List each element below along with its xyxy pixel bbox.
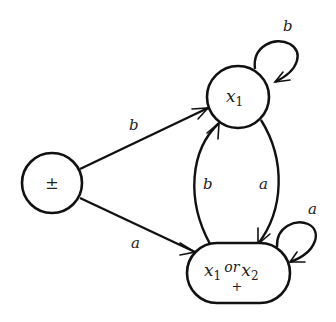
automaton-diagram: b a b a b a ± x1 [0, 0, 336, 322]
edge-x1-to-x1-or-x2: a [258, 120, 279, 244]
node-x1-or-x2: x1orx2 + [187, 243, 290, 303]
edge-label: b [203, 175, 213, 193]
edge-label: a [308, 200, 317, 218]
final-state-mark: + [232, 279, 243, 294]
edge-label: a [131, 234, 140, 252]
node-start: ± [22, 153, 82, 213]
edge-label: b [283, 17, 293, 35]
edge-start-to-x1-or-x2: a [80, 198, 195, 255]
self-loop-x1: b [255, 17, 298, 82]
node-x1: x1 [207, 66, 269, 128]
edge-start-to-x1: b [80, 108, 208, 169]
node-label: ± [45, 174, 58, 193]
edge-label: a [259, 175, 268, 193]
edge-x1-or-x2-to-x1: b [194, 123, 219, 244]
edge-label: b [129, 116, 139, 134]
